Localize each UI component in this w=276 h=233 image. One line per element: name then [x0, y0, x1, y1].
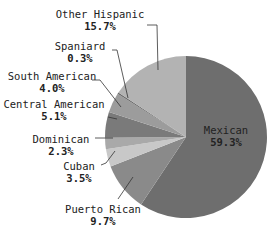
label-name: Other Hispanic [56, 8, 145, 20]
label-cuban: Cuban 3.5% [58, 160, 100, 184]
label-name: Cuban [63, 160, 95, 172]
label-puerto-rican: Puerto Rican 9.7% [58, 203, 148, 227]
label-central-american: Central American 5.1% [0, 98, 108, 122]
label-spaniard: Spaniard 0.3% [48, 40, 112, 64]
label-name: South American [8, 70, 97, 82]
label-value: 0.3% [48, 52, 112, 64]
label-south-american: South American 4.0% [6, 70, 98, 94]
label-name: Mexican [204, 124, 248, 136]
label-other-hispanic: Other Hispanic 15.7% [50, 8, 150, 32]
label-value: 3.5% [58, 172, 100, 184]
label-mexican: Mexican 59.3% [196, 124, 256, 148]
label-name: Puerto Rican [65, 203, 141, 215]
label-value: 4.0% [6, 82, 98, 94]
pie-chart: Other Hispanic 15.7% Spaniard 0.3% South… [0, 0, 276, 233]
label-value: 5.1% [0, 110, 108, 122]
label-value: 15.7% [50, 20, 150, 32]
label-dominican: Dominican 2.3% [30, 133, 92, 157]
label-name: Central American [3, 98, 104, 110]
label-value: 2.3% [30, 145, 92, 157]
label-name: Spaniard [55, 40, 106, 52]
label-value: 59.3% [196, 136, 256, 148]
label-value: 9.7% [58, 215, 148, 227]
label-name: Dominican [33, 133, 90, 145]
